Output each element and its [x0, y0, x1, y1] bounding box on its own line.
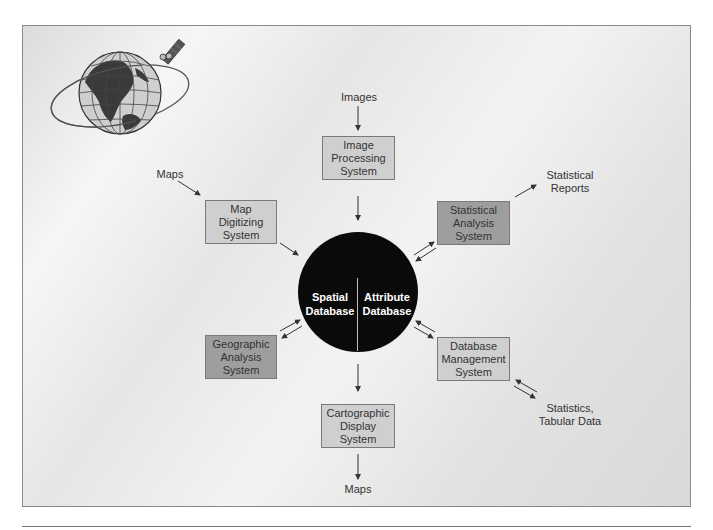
images-input-label: Images	[330, 91, 388, 104]
maps-output-label: Maps	[335, 483, 381, 496]
database-divider	[357, 278, 358, 351]
database-management-system-box: Database Management System	[437, 337, 510, 381]
statistical-analysis-system-box: Statistical Analysis System	[437, 201, 510, 245]
attribute-database-label: Attribute Database	[359, 290, 415, 318]
geographic-analysis-system-box: Geographic Analysis System	[205, 335, 277, 379]
maps-input-label: Maps	[150, 168, 190, 181]
image-processing-system-box: Image Processing System	[322, 136, 395, 180]
map-digitizing-system-box: Map Digitizing System	[205, 200, 277, 244]
cartographic-display-system-box: Cartographic Display System	[321, 404, 395, 448]
statistical-reports-output-label: Statistical Reports	[536, 169, 604, 195]
statistics-tabular-data-label: Statistics, Tabular Data	[525, 402, 615, 428]
spatial-database-label: Spatial Database	[304, 290, 356, 318]
